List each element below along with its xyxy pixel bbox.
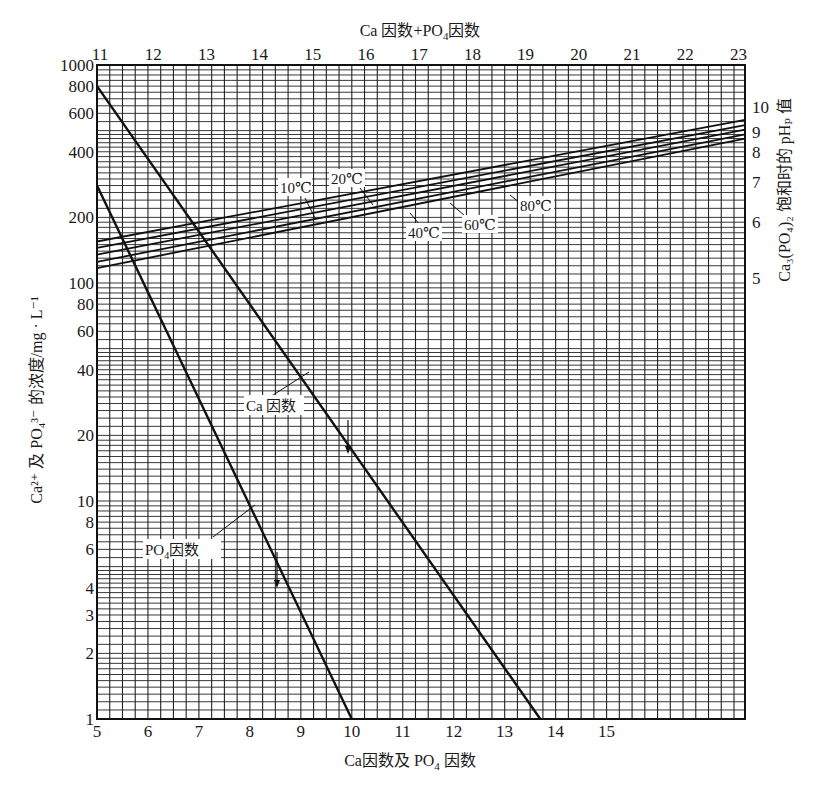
data-lines — [97, 86, 745, 719]
right-tick: 5 — [752, 269, 761, 288]
right-axis-title: Ca₃(PO₄)₂ 饱和时的 pHₚ 值 — [776, 98, 794, 282]
top-tick: 21 — [624, 45, 641, 64]
bottom-tick: 15 — [598, 722, 615, 741]
bottom-tick: 14 — [547, 722, 565, 741]
bottom-axis-title: Ca因数及 PO4 因数 — [344, 752, 476, 772]
bottom-tick: 11 — [395, 722, 411, 741]
top-tick: 16 — [358, 45, 375, 64]
bottom-tick: 12 — [445, 722, 462, 741]
left-tick: 400 — [69, 143, 95, 162]
left-tick: 3 — [86, 606, 95, 625]
bottom-tick: 8 — [246, 722, 255, 741]
label-80c: 80℃ — [520, 198, 552, 214]
right-tick: 7 — [752, 173, 761, 192]
plot-frame — [97, 65, 745, 719]
label-10c: 10℃ — [280, 180, 312, 196]
top-tick: 14 — [251, 45, 269, 64]
top-tick: 22 — [677, 45, 694, 64]
left-tick: 80 — [77, 295, 94, 314]
right-tick: 8 — [752, 143, 761, 162]
top-tick: 18 — [464, 45, 481, 64]
bottom-tick: 5 — [93, 722, 102, 741]
top-axis-title: Ca 因数+PO4因数 — [360, 22, 481, 42]
top-tick: 23 — [730, 45, 747, 64]
left-tick: 100 — [69, 274, 95, 293]
left-tick: 600 — [69, 104, 95, 123]
top-tick: 19 — [517, 45, 534, 64]
grid — [97, 65, 745, 719]
label-40c: 40℃ — [408, 225, 440, 241]
left-tick: 1 — [86, 710, 95, 729]
left-tick: 10 — [77, 492, 94, 511]
top-tick: 17 — [411, 45, 429, 64]
bottom-tick: 6 — [144, 722, 153, 741]
left-tick: 800 — [69, 77, 95, 96]
top-tick: 12 — [145, 45, 162, 64]
axis-ticks: 5678910111213141511121314151617181920212… — [60, 45, 769, 741]
right-tick: 6 — [752, 213, 761, 232]
bottom-tick: 7 — [195, 722, 204, 741]
left-tick: 40 — [77, 361, 94, 380]
left-axis-title: Ca²⁺ 及 PO₄³⁻ 的浓度/mg · L⁻¹ — [28, 296, 46, 504]
label-ca-factor: Ca 因数 — [246, 398, 296, 414]
right-tick: 10 — [752, 98, 769, 117]
label-20c: 20℃ — [331, 171, 363, 187]
left-tick: 1000 — [60, 56, 94, 75]
left-tick: 4 — [86, 579, 95, 598]
left-tick: 20 — [77, 426, 94, 445]
left-tick: 8 — [86, 513, 95, 532]
series-line — [97, 134, 745, 261]
arrow-down-icon — [345, 446, 351, 454]
left-tick: 60 — [77, 322, 94, 341]
bottom-tick: 9 — [297, 722, 306, 741]
nomogram-chart: Ca 因数+PO4因数 Ca因数及 PO4 因数 Ca²⁺ 及 PO₄³⁻ 的浓… — [0, 0, 831, 801]
left-tick: 6 — [86, 540, 95, 559]
bottom-tick: 10 — [343, 722, 360, 741]
top-tick: 15 — [304, 45, 321, 64]
label-60c: 60℃ — [464, 217, 496, 233]
bottom-tick: 13 — [496, 722, 513, 741]
top-tick: 20 — [570, 45, 587, 64]
left-tick: 200 — [69, 208, 95, 227]
series-line — [97, 139, 745, 269]
top-tick: 11 — [92, 45, 108, 64]
top-tick: 13 — [198, 45, 215, 64]
right-tick: 9 — [752, 123, 761, 142]
left-tick: 2 — [86, 644, 95, 663]
